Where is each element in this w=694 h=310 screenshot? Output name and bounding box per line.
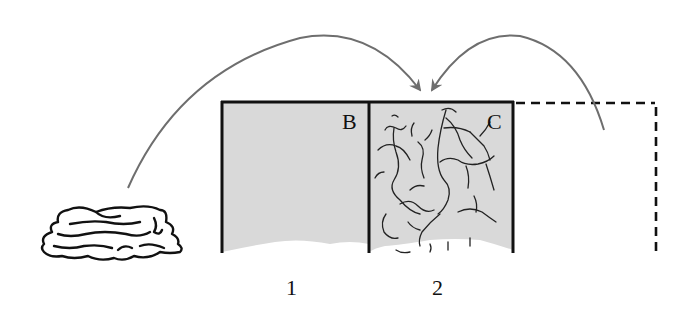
- compartment-c-number: 2: [432, 275, 443, 300]
- crumpled-heap-icon: [42, 206, 182, 259]
- dashed-compartment: [516, 103, 656, 255]
- diagram-canvas: B C 1 2: [0, 0, 694, 310]
- compartment-b-number: 1: [286, 275, 297, 300]
- compartment-b-letter: B: [342, 109, 357, 134]
- compartment-c-letter: C: [487, 109, 502, 134]
